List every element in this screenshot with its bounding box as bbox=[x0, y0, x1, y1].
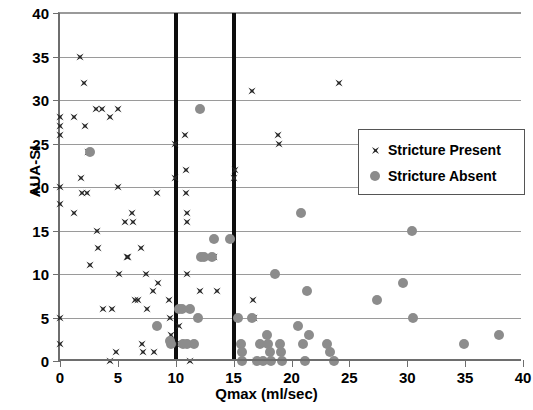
data-point bbox=[189, 339, 199, 349]
data-point bbox=[277, 356, 287, 366]
data-point bbox=[213, 287, 222, 296]
data-point bbox=[266, 356, 276, 366]
data-point bbox=[94, 243, 103, 252]
data-point bbox=[185, 357, 194, 366]
data-point bbox=[296, 208, 306, 218]
data-point bbox=[293, 321, 303, 331]
data-point bbox=[152, 321, 162, 331]
data-point bbox=[334, 78, 343, 87]
y-tick-label-40: 40 bbox=[32, 6, 49, 21]
x-tick-40 bbox=[523, 360, 524, 367]
data-point bbox=[165, 313, 174, 322]
data-point bbox=[69, 209, 78, 218]
x-tick-label-5: 5 bbox=[114, 370, 122, 385]
gridline-y-15 bbox=[60, 231, 521, 232]
data-point bbox=[56, 339, 65, 348]
legend: Stricture Present Stricture Absent bbox=[358, 129, 525, 195]
legend-item-stricture-absent: Stricture Absent bbox=[368, 163, 524, 189]
x-tick-label-0: 0 bbox=[56, 370, 64, 385]
data-point bbox=[182, 189, 191, 198]
data-point bbox=[407, 226, 417, 236]
x-tick-30 bbox=[407, 360, 408, 367]
data-point bbox=[141, 270, 150, 279]
legend-star-marker-icon bbox=[368, 146, 382, 155]
data-point bbox=[56, 113, 65, 122]
x-tick-label-30: 30 bbox=[399, 370, 416, 385]
data-point bbox=[273, 130, 282, 139]
data-point bbox=[237, 356, 247, 366]
x-axis-title: Qmax (ml/sec) bbox=[0, 385, 533, 402]
y-tick-40 bbox=[53, 13, 60, 14]
data-point bbox=[164, 296, 173, 305]
data-point bbox=[182, 165, 191, 174]
data-point bbox=[154, 278, 163, 287]
x-tick-label-35: 35 bbox=[457, 370, 474, 385]
data-point bbox=[181, 130, 190, 139]
data-point bbox=[153, 189, 162, 198]
x-tick-25 bbox=[349, 360, 350, 367]
legend-label-stricture-absent: Stricture Absent bbox=[388, 168, 496, 184]
y-tick-0 bbox=[53, 361, 60, 362]
x-tick-15 bbox=[234, 360, 235, 367]
data-point bbox=[209, 234, 219, 244]
data-point bbox=[196, 287, 205, 296]
data-point bbox=[69, 113, 78, 122]
data-point bbox=[56, 130, 65, 139]
data-point bbox=[185, 304, 195, 314]
y-tick-35 bbox=[53, 57, 60, 58]
data-point bbox=[170, 174, 179, 183]
y-tick-15 bbox=[53, 231, 60, 232]
data-point bbox=[225, 234, 235, 244]
legend-item-stricture-present: Stricture Present bbox=[368, 137, 524, 163]
x-tick-20 bbox=[292, 360, 293, 367]
data-point bbox=[302, 286, 312, 296]
y-tick-label-30: 30 bbox=[32, 93, 49, 108]
data-point bbox=[108, 304, 117, 313]
data-point bbox=[230, 165, 239, 174]
y-tick-10 bbox=[53, 274, 60, 275]
data-point bbox=[139, 348, 148, 357]
data-point bbox=[113, 104, 122, 113]
data-point bbox=[304, 330, 314, 340]
data-point bbox=[56, 313, 65, 322]
y-tick-label-10: 10 bbox=[32, 267, 49, 282]
data-point bbox=[80, 78, 89, 87]
y-tick-label-5: 5 bbox=[41, 310, 49, 325]
data-point bbox=[56, 183, 65, 192]
data-point bbox=[195, 104, 205, 114]
y-tick-label-35: 35 bbox=[32, 49, 49, 64]
data-point bbox=[233, 313, 243, 323]
data-point bbox=[105, 357, 114, 366]
data-point bbox=[82, 189, 91, 198]
data-point bbox=[249, 296, 258, 305]
data-point bbox=[248, 87, 257, 96]
data-point bbox=[98, 304, 107, 313]
data-point bbox=[193, 313, 203, 323]
data-point bbox=[183, 209, 192, 218]
data-point bbox=[76, 174, 85, 183]
x-tick-5 bbox=[118, 360, 119, 367]
x-axis-line bbox=[58, 359, 521, 361]
data-point bbox=[408, 313, 418, 323]
data-point bbox=[229, 174, 238, 183]
data-point bbox=[81, 122, 90, 131]
data-point bbox=[124, 252, 133, 261]
qmax-15-line bbox=[232, 13, 236, 360]
data-point bbox=[298, 339, 308, 349]
x-tick-0 bbox=[60, 360, 61, 367]
data-point bbox=[207, 252, 217, 262]
data-point bbox=[247, 313, 257, 323]
y-tick-label-15: 15 bbox=[32, 223, 49, 238]
data-point bbox=[372, 295, 382, 305]
data-point bbox=[133, 296, 142, 305]
data-point bbox=[166, 339, 176, 349]
data-point bbox=[86, 261, 95, 270]
x-tick-label-15: 15 bbox=[225, 370, 242, 385]
x-tick-label-20: 20 bbox=[283, 370, 300, 385]
x-tick-label-25: 25 bbox=[341, 370, 358, 385]
data-point bbox=[75, 52, 84, 61]
data-point bbox=[175, 322, 184, 331]
data-point bbox=[148, 287, 157, 296]
data-point bbox=[274, 139, 283, 148]
data-point bbox=[270, 269, 280, 279]
